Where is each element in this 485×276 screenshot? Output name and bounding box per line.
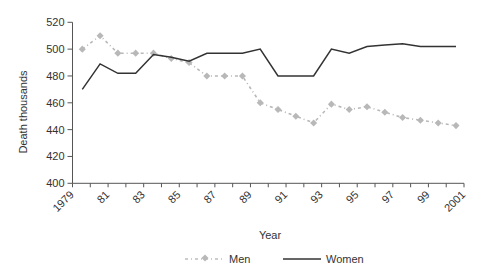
men-diamond-marker-icon	[435, 119, 442, 126]
y-axis-title: Death thousands	[17, 70, 29, 154]
x-tick-label: 1979	[50, 188, 76, 214]
y-axis: 400420440460480500520	[46, 16, 72, 189]
men-diamond-marker-icon	[452, 122, 459, 129]
y-tick-label: 420	[46, 150, 64, 162]
legend-men-label: Men	[229, 253, 250, 265]
men-diamond-marker-icon	[150, 50, 157, 57]
y-tick-label: 520	[46, 16, 64, 28]
men-diamond-marker-icon	[346, 106, 353, 113]
series-line-men	[82, 36, 456, 126]
x-tick-label: 2001	[442, 188, 468, 214]
men-diamond-marker-icon	[168, 55, 175, 62]
line-chart: 400420440460480500520 197981838587899193…	[0, 0, 485, 276]
x-tick-label: 95	[343, 188, 360, 205]
men-diamond-marker-icon	[417, 117, 424, 124]
legend-men-diamond-icon	[201, 254, 208, 261]
x-tick-label: 91	[272, 188, 289, 205]
legend-women-label: Women	[326, 253, 364, 265]
x-tick-label: 89	[237, 188, 254, 205]
men-diamond-marker-icon	[221, 72, 228, 79]
legend-item-women: Women	[283, 253, 364, 265]
x-tick-label: 87	[201, 188, 218, 205]
y-tick-label: 440	[46, 124, 64, 136]
y-tick-label: 500	[46, 43, 64, 55]
men-diamond-marker-icon	[328, 101, 335, 108]
plot-area	[79, 32, 460, 129]
legend: Men Women	[185, 253, 364, 265]
x-tick-label: 97	[379, 188, 396, 205]
men-diamond-marker-icon	[399, 114, 406, 121]
men-diamond-marker-icon	[114, 50, 121, 57]
men-diamond-marker-icon	[292, 113, 299, 120]
x-tick-label: 93	[308, 188, 325, 205]
x-tick-label: 99	[415, 188, 432, 205]
men-diamond-marker-icon	[275, 106, 282, 113]
series-line-women	[82, 44, 456, 90]
men-diamond-marker-icon	[97, 32, 104, 39]
y-tick-label: 400	[46, 177, 64, 189]
legend-item-men: Men	[185, 253, 250, 265]
x-tick-label: 83	[130, 188, 147, 205]
x-axis-title: Year	[259, 229, 282, 241]
men-diamond-marker-icon	[203, 72, 210, 79]
men-diamond-marker-icon	[363, 103, 370, 110]
x-axis: 1979818385878991939597992001	[50, 183, 467, 214]
y-tick-label: 480	[46, 70, 64, 82]
x-tick-label: 81	[94, 188, 111, 205]
men-diamond-marker-icon	[132, 50, 139, 57]
men-diamond-marker-icon	[381, 109, 388, 116]
x-tick-label: 85	[166, 188, 183, 205]
y-tick-label: 460	[46, 97, 64, 109]
men-diamond-marker-icon	[79, 46, 86, 53]
